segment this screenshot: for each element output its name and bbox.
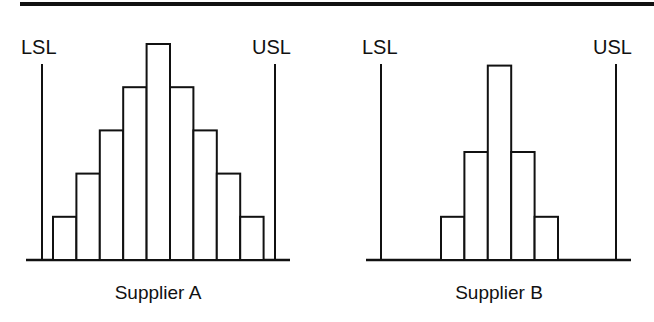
supplier-a-histogram xyxy=(26,44,290,260)
histogram-bar xyxy=(147,44,170,260)
supplier-b-lsl-label: LSL xyxy=(362,37,398,57)
histogram-bar xyxy=(535,217,558,260)
supplier-b-caption: Supplier B xyxy=(399,283,599,302)
histogram-canvas xyxy=(0,0,654,322)
histogram-bar xyxy=(464,152,487,260)
histogram-bar xyxy=(76,174,99,260)
histogram-bar xyxy=(53,217,76,260)
supplier-b-usl-label: USL xyxy=(593,37,632,57)
histogram-bar xyxy=(217,174,240,260)
histogram-bar xyxy=(488,66,511,260)
supplier-a-caption: Supplier A xyxy=(58,283,258,302)
histogram-bar xyxy=(511,152,534,260)
supplier-a-lsl-label: LSL xyxy=(21,37,57,57)
histogram-bar xyxy=(240,217,263,260)
histogram-bar xyxy=(100,130,123,260)
histogram-bar xyxy=(441,217,464,260)
supplier-a-usl-label: USL xyxy=(252,37,291,57)
supplier-b-histogram xyxy=(366,64,631,260)
histogram-bar xyxy=(123,87,146,260)
histogram-bar xyxy=(193,130,216,260)
histogram-bar xyxy=(170,87,193,260)
